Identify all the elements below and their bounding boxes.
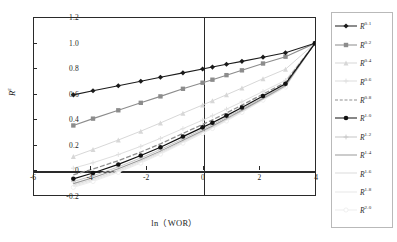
legend-swatch [335, 150, 357, 160]
y-axis-title-exponent: ε [6, 88, 12, 91]
legend-label-exponent: 1.8 [365, 187, 372, 192]
y-axis-title-base: R [7, 91, 17, 96]
legend-label-exponent: 0.6 [365, 77, 372, 82]
legend-item-R2.0[interactable]: R2.0 [335, 201, 390, 219]
legend-swatch [335, 113, 357, 123]
legend-label-exponent: 0.8 [365, 95, 372, 100]
legend-swatch [335, 58, 357, 68]
legend-label: R1.4 [360, 150, 371, 160]
legend-marker-line-icon [339, 149, 353, 161]
x-axis-tick-mark [90, 166, 91, 170]
legend-swatch [335, 21, 357, 31]
legend-label-exponent: 0.2 [365, 40, 372, 45]
legend-marker-diamond-icon [339, 20, 353, 32]
legend-label: R0.8 [360, 95, 371, 105]
legend-label: R0.2 [360, 40, 371, 50]
legend-label-exponent: 2.0 [365, 205, 372, 210]
legend-item-R0.1[interactable]: R0.1 [335, 17, 390, 35]
x-axis-tick-label: 2 [258, 173, 262, 182]
legend-swatch [335, 132, 357, 142]
legend-swatch [335, 76, 357, 86]
series-R2.0 [71, 41, 315, 189]
legend-label: R0.1 [360, 21, 371, 31]
series-R1.2 [71, 41, 315, 184]
y-axis-tick-label: 0.4 [69, 115, 79, 124]
y-axis-title: Rε [6, 88, 17, 96]
legend-marker-line-icon [339, 186, 353, 198]
legend-marker-triangle-icon [339, 57, 353, 69]
x-axis-title: ln（WOR） [33, 216, 316, 228]
legend-label: R0.6 [360, 77, 371, 87]
x-axis-tick-label: 0 [201, 173, 205, 182]
legend-label-exponent: 1.0 [365, 113, 372, 118]
y-axis-tick-label: 0.2 [69, 140, 79, 149]
series-R1.0 [71, 41, 315, 181]
y-axis-tick-mark [33, 94, 37, 95]
y-axis-tick-label: 0.6 [69, 89, 79, 98]
x-axis-tick-mark [146, 166, 147, 170]
y-axis-tick-label: 1.2 [69, 13, 79, 22]
y-axis-tick-mark [33, 119, 37, 120]
legend-marker-dashline-icon [339, 94, 353, 106]
legend-item-R1.0[interactable]: R1.0 [335, 109, 390, 127]
legend-item-R0.4[interactable]: R0.4 [335, 54, 390, 72]
y-axis-tick-label: 0 [75, 166, 79, 175]
legend-marker-square-icon [339, 39, 353, 51]
legend-item-R1.4[interactable]: R1.4 [335, 146, 390, 164]
legend-item-R0.8[interactable]: R0.8 [335, 91, 390, 109]
legend-label: R1.8 [360, 187, 371, 197]
legend-marker-cross-icon [339, 75, 353, 87]
legend-label: R0.4 [360, 58, 371, 68]
x-axis-tick-mark [259, 166, 260, 170]
legend-label: R1.2 [360, 132, 371, 142]
legend-label: R1.0 [360, 113, 371, 123]
chart-figure: Rε 1.21.00.80.60.40.20-0.2 -6-4-2024 ln（… [0, 0, 397, 242]
legend-item-R1.8[interactable]: R1.8 [335, 183, 390, 201]
legend-label: R1.6 [360, 169, 371, 179]
legend-label-exponent: 1.6 [365, 169, 372, 174]
legend-label-exponent: 0.1 [365, 21, 372, 26]
y-axis-tick-mark [33, 68, 37, 69]
legend: R0.1R0.2R0.4R0.6R0.8R1.0R1.2R1.4R1.6R1.8… [331, 12, 393, 228]
legend-swatch [335, 40, 357, 50]
y-axis-tick-label: 1.0 [69, 38, 79, 47]
y-axis-tick-label: 0.8 [69, 64, 79, 73]
legend-item-R0.6[interactable]: R0.6 [335, 72, 390, 90]
series-R1.8 [73, 43, 315, 186]
legend-swatch [335, 187, 357, 197]
y-axis-tick-mark [33, 170, 37, 171]
legend-marker-circle-icon [339, 112, 353, 124]
y-axis-tick-mark [33, 145, 37, 146]
x-axis-tick-label: -2 [143, 173, 149, 182]
x-axis-tick-label: -6 [30, 173, 36, 182]
series-R0.6 [71, 41, 315, 171]
legend-item-R0.2[interactable]: R0.2 [335, 35, 390, 53]
legend-marker-plus-icon [339, 131, 353, 143]
legend-marker-circle-open-icon [339, 204, 353, 216]
legend-item-R1.2[interactable]: R1.2 [335, 127, 390, 145]
legend-label: R2.0 [360, 205, 371, 215]
x-axis-tick-label: 4 [314, 173, 318, 182]
legend-label-exponent: 1.4 [365, 150, 372, 155]
legend-label-exponent: 1.2 [365, 132, 372, 137]
x-axis-tick-mark [203, 166, 204, 170]
legend-swatch [335, 205, 357, 215]
legend-swatch [335, 168, 357, 178]
legend-swatch [335, 95, 357, 105]
y-axis-tick-mark [33, 43, 37, 44]
legend-marker-line-icon [339, 167, 353, 179]
y-axis-tick-label: -0.2 [66, 192, 79, 201]
legend-label-exponent: 0.4 [365, 58, 372, 63]
legend-item-R1.6[interactable]: R1.6 [335, 164, 390, 182]
x-axis-tick-label: -4 [86, 173, 92, 182]
